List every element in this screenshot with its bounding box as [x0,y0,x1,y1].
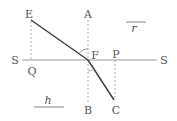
label-q: Q [27,65,36,78]
angle-incidence-arc [79,49,88,54]
label-h: h [44,94,51,107]
refracted-ray [88,60,114,100]
angle-refraction-arc [88,69,94,71]
refraction-diagram: E A F P S S Q B C r h [0,0,177,121]
label-c: C [112,104,120,117]
incident-ray [31,20,88,60]
label-b: B [84,104,92,117]
label-r: r [131,22,137,35]
label-s-right: S [160,54,168,67]
label-p: P [112,48,120,61]
label-e: E [25,8,33,21]
label-a: A [83,8,93,21]
label-s-left: S [11,54,19,67]
label-f: F [91,49,99,62]
